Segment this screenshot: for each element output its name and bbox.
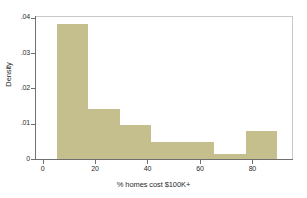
x-axis-tick (252, 160, 253, 164)
x-axis-tick-label: 20 (83, 165, 107, 172)
x-axis-line (35, 159, 293, 160)
histogram-bar (88, 109, 119, 159)
x-axis-tick (95, 160, 96, 164)
plot-area (36, 16, 293, 159)
histogram-bar (57, 24, 88, 159)
x-axis-tick (43, 160, 44, 164)
bars-container (36, 17, 292, 159)
y-axis-tick (31, 88, 35, 89)
x-axis-tick-label: 40 (135, 165, 159, 172)
histogram-bar (120, 125, 151, 159)
x-axis-title: % homes cost $100K+ (0, 180, 307, 189)
x-axis-tick-label: 80 (240, 165, 264, 172)
y-axis-tick-label: 0 (0, 155, 30, 162)
x-axis-tick (200, 160, 201, 164)
histogram-figure: .04.03.02.010 020406080 Density % homes … (0, 0, 307, 198)
y-axis-tick (31, 124, 35, 125)
y-axis-tick-label: .01 (0, 119, 30, 126)
y-axis-tick (31, 159, 35, 160)
y-axis-tick (31, 53, 35, 54)
y-axis-tick (31, 18, 35, 19)
y-axis-title: Density (4, 45, 13, 105)
y-axis-line (35, 16, 36, 160)
x-axis-tick-label: 60 (188, 165, 212, 172)
histogram-bar (246, 131, 277, 159)
x-axis-tick (147, 160, 148, 164)
histogram-bar (183, 142, 214, 159)
x-axis-tick-label: 0 (31, 165, 55, 172)
histogram-bar (151, 142, 182, 159)
y-axis-tick-label: .04 (0, 13, 30, 20)
